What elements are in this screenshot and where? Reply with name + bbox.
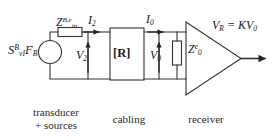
source-force-symbol: F (25, 43, 33, 57)
caption-receiver: receiver (175, 113, 237, 126)
receiver-impedance-box (173, 41, 182, 65)
i2-subscript: 2 (92, 19, 96, 28)
zin-superscript: B,e (62, 16, 71, 24)
current-i2-arrowhead (94, 29, 100, 34)
caption-transducer: transducer + sources (18, 106, 94, 132)
output-relation-label: VR = KV0 (212, 19, 257, 32)
i0-subscript: 0 (150, 18, 154, 27)
current-i0-arrowhead (158, 29, 164, 34)
wire-source-to-zin (50, 32, 58, 41)
voltage-v0-arrowhead (156, 42, 161, 48)
amplifier-triangle (186, 22, 241, 95)
z0-subscript: 0 (198, 48, 202, 57)
receiver-impedance-label: Ze0 (188, 43, 202, 56)
cabling-matrix-label: [R] (113, 47, 130, 60)
v0-subscript: 0 (157, 54, 161, 63)
zin-subscript: in (72, 22, 78, 30)
caption-transducer-line2: + sources (18, 119, 94, 132)
equals-sign: = (227, 18, 235, 32)
gain-symbol: K (238, 18, 246, 32)
v0-output-subscript: 0 (253, 24, 257, 33)
figure-canvas: SBvIFB ZB,ein I2 V2 [R] I0 V0 Ze0 VR = K… (0, 0, 280, 139)
voltage-v2-label: V2 (76, 49, 87, 62)
caption-cabling: cabling (103, 113, 155, 126)
current-i0-label: I0 (146, 13, 154, 26)
wire-source-bottom-return (50, 64, 110, 80)
voltage-source-symbol (39, 41, 62, 64)
source-label: SBvIFB (8, 44, 37, 57)
source-force-subscript: B (33, 49, 38, 58)
voltage-v2-arrowhead (85, 42, 90, 48)
caption-transducer-line1: transducer (18, 106, 94, 119)
z0-symbol: Z (188, 42, 195, 56)
voltage-v0-label: V0 (150, 49, 161, 62)
output-arrowhead (259, 55, 267, 62)
input-impedance-label: ZB,ein (56, 17, 77, 30)
current-i2-label: I2 (88, 14, 96, 27)
v2-subscript: 2 (83, 54, 87, 63)
